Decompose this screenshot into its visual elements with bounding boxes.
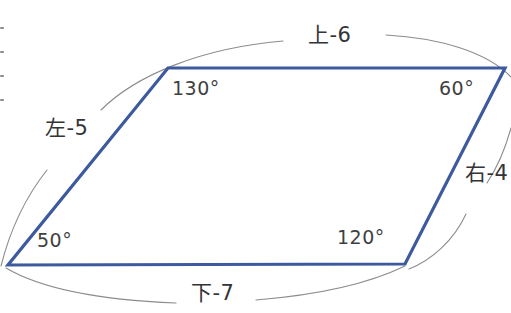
left-edge-tick-marks xyxy=(0,27,10,117)
top-arc-left-segment xyxy=(101,41,283,110)
shape-outline xyxy=(8,68,505,265)
tick-mark-icon xyxy=(0,75,4,77)
side-label-right: 右-4 xyxy=(465,163,508,184)
tick-mark-icon xyxy=(0,51,4,53)
bottom-arc-left-segment xyxy=(6,268,176,303)
angle-label-bottom-left: 50° xyxy=(37,231,72,250)
left-arc xyxy=(1,170,47,266)
parallelogram-figure xyxy=(0,0,511,313)
side-label-bottom: 下-7 xyxy=(191,283,234,304)
tick-mark-icon xyxy=(0,99,4,101)
diagram-canvas: 130° 60° 50° 120° 上-6 左-5 右-4 下-7 xyxy=(0,0,511,313)
side-label-left: 左-5 xyxy=(45,118,88,139)
angle-label-top-right: 60° xyxy=(439,79,474,98)
shape-path xyxy=(8,68,505,265)
side-label-top: 上-6 xyxy=(308,25,351,46)
top-arc-right-segment xyxy=(386,35,511,77)
angle-label-top-left: 130° xyxy=(172,79,220,98)
tick-mark-icon xyxy=(0,27,4,29)
bottom-arc-right-segment xyxy=(256,266,405,300)
angle-label-bottom-right: 120° xyxy=(337,228,385,247)
